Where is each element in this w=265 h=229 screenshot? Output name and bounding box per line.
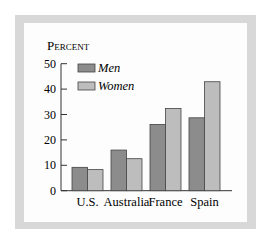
x-tick-label: U.S.: [76, 195, 98, 209]
bar-chart: PERCENT 01020304050 U.S.AustraliaFranceS…: [0, 0, 265, 229]
y-tick-label: 20: [44, 133, 56, 147]
legend-swatch-women: [78, 82, 95, 90]
bars: [72, 82, 220, 191]
legend-label-men: Men: [97, 61, 120, 75]
y-tick-label: 30: [44, 108, 56, 122]
x-axis-labels: U.S.AustraliaFranceSpain: [76, 195, 219, 209]
legend-label-women: Women: [98, 79, 134, 93]
x-tick-label: Spain: [190, 195, 219, 209]
legend: MenWomen: [78, 61, 134, 93]
y-tick-label: 40: [44, 82, 56, 96]
bar-women-us: [88, 170, 104, 191]
bar-men-france: [150, 124, 166, 190]
y-tick-label: 50: [44, 57, 56, 71]
bar-men-spain: [189, 118, 205, 191]
bar-women-spain: [205, 82, 221, 191]
bar-men-us: [72, 167, 88, 190]
bar-women-australia: [127, 159, 143, 191]
bar-men-australia: [111, 150, 127, 191]
y-tick-label: 0: [50, 184, 56, 198]
x-tick-label: Australia: [104, 195, 150, 209]
y-tick-label: 10: [44, 158, 56, 172]
x-tick-label: France: [148, 195, 182, 209]
bar-women-france: [166, 108, 182, 190]
y-axis-label: PERCENT: [47, 38, 90, 53]
legend-swatch-men: [78, 64, 95, 72]
